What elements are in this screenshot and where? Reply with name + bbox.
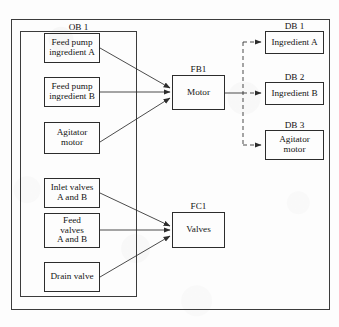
- block-fc1-valves[interactable]: Valves: [172, 212, 225, 248]
- block-agitator-motor-line-2: motor: [46, 138, 98, 148]
- block-db1-line-1: Ingredient A: [267, 38, 322, 48]
- ob1-label: OB 1: [20, 22, 137, 32]
- diagram-canvas: OB 1: [0, 0, 339, 327]
- db3-caption: DB 3: [265, 120, 324, 130]
- db1-caption: DB 1: [265, 21, 324, 31]
- block-agitator-motor[interactable]: Agitator motor: [44, 122, 100, 154]
- wire-feed-pump-a-to-fb1: [100, 48, 170, 88]
- block-feed-pump-a-line-2: ingredient A: [46, 48, 98, 58]
- block-db3-agitator-motor[interactable]: Agitator motor: [265, 130, 324, 160]
- block-db2-line-1: Ingredient B: [267, 89, 322, 99]
- block-db3-line-2: motor: [267, 145, 322, 155]
- wire-inlet-valves-to-fc1: [100, 193, 170, 226]
- block-inlet-valves-line-2: A and B: [46, 193, 98, 203]
- fb1-caption: FB1: [172, 64, 225, 74]
- wire-drain-valve-to-fc1: [100, 236, 170, 277]
- block-db2-ingredient-b[interactable]: Ingredient B: [265, 82, 324, 105]
- block-db1-ingredient-a[interactable]: Ingredient A: [265, 31, 324, 54]
- block-fc1-valves-line-1: Valves: [174, 225, 223, 235]
- block-feed-valves-line-3: A and B: [46, 235, 98, 245]
- db2-caption: DB 2: [265, 72, 324, 82]
- block-fb1-motor[interactable]: Motor: [172, 75, 225, 110]
- block-fb1-motor-line-1: Motor: [174, 88, 223, 98]
- block-drain-valve[interactable]: Drain valve: [44, 262, 100, 292]
- block-feed-pump-b-line-2: ingredient B: [46, 92, 98, 102]
- block-feed-valves[interactable]: Feed valves A and B: [44, 213, 100, 248]
- block-drain-valve-line-1: Drain valve: [46, 272, 98, 282]
- fc1-caption: FC1: [172, 201, 225, 211]
- block-feed-pump-a[interactable]: Feed pump ingredient A: [44, 33, 100, 63]
- block-feed-pump-b[interactable]: Feed pump ingredient B: [44, 77, 100, 107]
- wire-agitator-motor-to-fb1: [100, 98, 170, 142]
- block-inlet-valves[interactable]: Inlet valves A and B: [44, 178, 100, 208]
